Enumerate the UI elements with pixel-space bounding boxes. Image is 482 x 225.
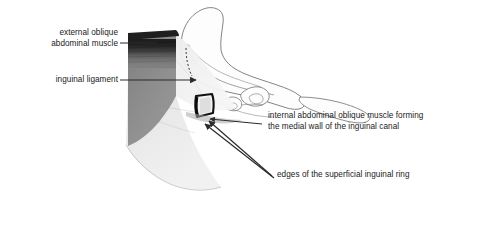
label-internal-abdominal-oblique-muscle: internal abdominal oblique muscle formin… [268,111,480,132]
label-superficial-ring-line1: edges of the superficial inguinal ring [277,170,477,181]
superficial-inguinal-ring [195,94,213,117]
inguinal-ring-inner-shadow [200,97,211,114]
leader-line-ring-lower [205,124,274,178]
label-internal-oblique-line2: the medial wall of the inguinal canal [268,122,480,133]
label-inguinal-ligament: inguinal ligament [14,75,118,86]
label-external-oblique-abdominal-muscle: external oblique abdominal muscle [14,28,118,49]
label-internal-oblique-line1: internal abdominal oblique muscle formin… [268,111,480,122]
leader-line-ring-upper [209,121,272,176]
label-external-oblique-line2: abdominal muscle [14,39,118,50]
label-inguinal-ligament-line1: inguinal ligament [14,75,118,86]
label-edges-of-superficial-inguinal-ring: edges of the superficial inguinal ring [277,170,477,181]
figure-canvas: external oblique abdominal muscle inguin… [0,0,482,225]
label-external-oblique-line1: external oblique [14,28,118,39]
